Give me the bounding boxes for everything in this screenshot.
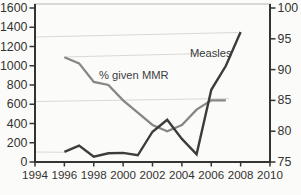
series-label-measles: Measles — [190, 47, 232, 59]
x-axis-tick-label: 2010 — [257, 168, 283, 181]
x-axis-tick-label: 2004 — [169, 168, 195, 181]
right-axis-tick-label: 100 — [278, 1, 299, 15]
x-axis-tick-label: 2006 — [198, 168, 224, 181]
x-axis-tick-label: 1994 — [22, 168, 48, 181]
left-axis-tick-label: 1400 — [0, 20, 28, 34]
right-axis-tick-label: 95 — [278, 32, 292, 46]
left-axis-tick-label: 400 — [7, 117, 28, 131]
x-axis-tick-label: 1996 — [51, 168, 77, 181]
left-axis-tick-label: 200 — [7, 136, 28, 150]
x-axis-tick-label: 2002 — [140, 168, 166, 181]
x-axis-tick-label: 1998 — [81, 168, 107, 181]
left-axis-tick-label: 1000 — [0, 59, 28, 73]
scan-artifact-gridline — [64, 54, 205, 58]
right-axis-tick-label: 80 — [278, 124, 292, 138]
left-axis-tick-label: 1200 — [0, 40, 28, 54]
x-axis-tick-label: 2000 — [110, 168, 136, 181]
x-axis-tick-label: 2008 — [228, 168, 254, 181]
right-axis-tick-label: 90 — [278, 63, 292, 77]
scan-artifact-gridline — [35, 33, 238, 38]
series-label-given-mmr: % given MMR — [99, 69, 169, 81]
left-axis-tick-label: 600 — [7, 97, 28, 111]
left-axis-tick-label: 800 — [7, 78, 28, 92]
scan-artifact-gridline — [35, 99, 229, 102]
measles-mmr-chart-figure: 0200400600800100012001400160075808590951… — [0, 0, 301, 195]
right-axis-tick-label: 85 — [278, 93, 292, 107]
left-axis-tick-label: 1600 — [0, 1, 28, 15]
measles-mmr-chart: 0200400600800100012001400160075808590951… — [0, 0, 301, 195]
